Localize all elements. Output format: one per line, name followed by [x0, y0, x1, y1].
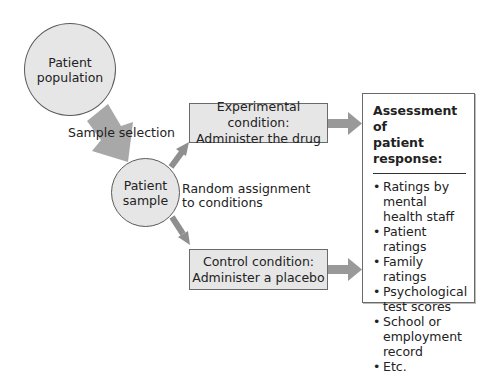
population-line1: Patient	[48, 55, 92, 70]
list-item: Ratings by mental health staff	[373, 179, 466, 224]
sample-line2: sample	[123, 193, 168, 208]
experimental-line2: Administer the drug	[196, 131, 321, 147]
arrow-to-experimental	[171, 142, 189, 167]
assessment-divider	[373, 173, 466, 174]
control-line2: Administer a placebo	[192, 270, 324, 286]
item-line: employment	[383, 329, 466, 344]
population-line2: population	[37, 70, 104, 85]
list-item: Psychological test scores	[373, 284, 466, 314]
assessment-box: Assessment of patient response: Ratings …	[362, 93, 475, 303]
control-line1: Control condition:	[203, 254, 314, 270]
assessment-title-line2: patient response:	[373, 135, 466, 167]
arrow-to-control	[172, 217, 190, 245]
assessment-title: Assessment of patient response:	[373, 103, 466, 167]
item-line: Psychological	[383, 284, 466, 299]
item-line: test scores	[383, 299, 466, 314]
list-item: Family ratings	[373, 254, 466, 284]
item-line: health staff	[383, 209, 466, 224]
assessment-list: Ratings by mental health staff Patient r…	[373, 179, 466, 374]
list-item: School or employment record	[373, 314, 466, 359]
experimental-condition-box: Experimental condition: Administer the d…	[189, 103, 328, 143]
list-item: Patient ratings	[373, 224, 466, 254]
item-line: mental	[383, 194, 466, 209]
sample-selection-label: Sample selection	[68, 125, 175, 140]
sample-line1: Patient	[124, 178, 168, 193]
item-line: Etc.	[383, 359, 466, 374]
arrow-control-to-assessment	[328, 258, 362, 281]
item-line: record	[383, 344, 466, 359]
patient-sample-node: Patient sample	[111, 158, 180, 227]
assessment-title-line1: Assessment of	[373, 103, 466, 135]
random-assignment-label: Random assignment to conditions	[182, 182, 310, 210]
random-line1: Random assignment	[182, 182, 310, 196]
arrow-experimental-to-assessment	[328, 112, 362, 135]
item-line: Patient ratings	[383, 224, 466, 254]
random-line2: to conditions	[182, 196, 310, 210]
list-item: Etc.	[373, 359, 466, 374]
item-line: Family ratings	[383, 254, 466, 284]
control-condition-box: Control condition: Administer a placebo	[189, 249, 328, 290]
patient-population-node: Patient population	[24, 23, 116, 116]
item-line: School or	[383, 314, 466, 329]
item-line: Ratings by	[383, 179, 466, 194]
experimental-line1: Experimental condition:	[190, 99, 327, 131]
